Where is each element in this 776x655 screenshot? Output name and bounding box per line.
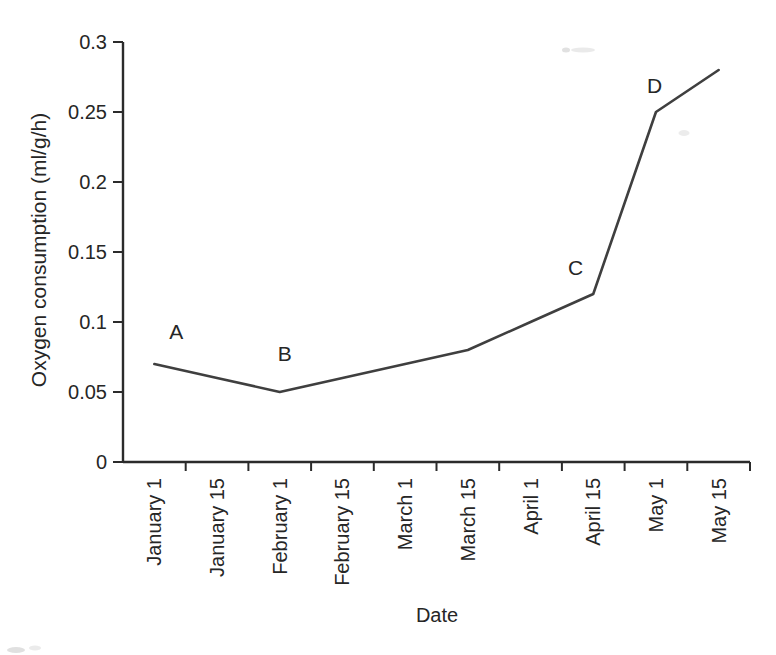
data-series [154, 70, 718, 392]
oxygen-consumption-series-line [154, 70, 718, 392]
y-tick-label: 0.1 [79, 311, 107, 333]
point-label-D: D [647, 74, 662, 97]
point-label-A: A [169, 320, 183, 343]
x-tick-label: January 15 [206, 478, 228, 577]
x-tick-label: January 1 [143, 478, 165, 566]
x-tick-label: April 15 [582, 478, 604, 546]
scan-artifact-smudge [679, 130, 690, 136]
x-tick-label: April 1 [520, 478, 542, 535]
x-tick-labels: January 1January 15February 1February 15… [143, 478, 729, 586]
x-tick-label: February 1 [269, 478, 291, 575]
point-label-C: C [568, 256, 583, 279]
x-tick-label: February 15 [331, 478, 353, 586]
y-tick-label: 0.3 [79, 31, 107, 53]
x-tick-label: March 15 [457, 478, 479, 561]
scan-artifact-smudge [7, 647, 25, 653]
scan-artifact-smudge [562, 48, 570, 53]
y-tick-label: 0.05 [68, 381, 107, 403]
x-axis-title: Date [416, 604, 458, 626]
y-tick-label: 0.25 [68, 101, 107, 123]
y-tick-label: 0.2 [79, 171, 107, 193]
y-axis-title: Oxygen consumption (ml/g/h) [27, 113, 50, 387]
y-tick-label: 0.15 [68, 241, 107, 263]
scan-artifact-smudge [571, 47, 595, 52]
oxygen-consumption-line-chart: 00.050.10.150.20.250.3 January 1January … [0, 0, 776, 655]
x-tick-label: March 1 [394, 478, 416, 550]
scanned-figure-page: 00.050.10.150.20.250.3 January 1January … [0, 0, 776, 655]
scan-artifact-smudge [29, 646, 41, 651]
axes [113, 42, 750, 471]
y-tick-labels: 00.050.10.150.20.250.3 [68, 31, 107, 473]
x-tick-label: May 15 [708, 478, 730, 544]
x-tick-label: May 1 [645, 478, 667, 532]
y-tick-label: 0 [96, 451, 107, 473]
point-label-B: B [278, 342, 292, 365]
point-annotations: ABCD [169, 74, 662, 365]
